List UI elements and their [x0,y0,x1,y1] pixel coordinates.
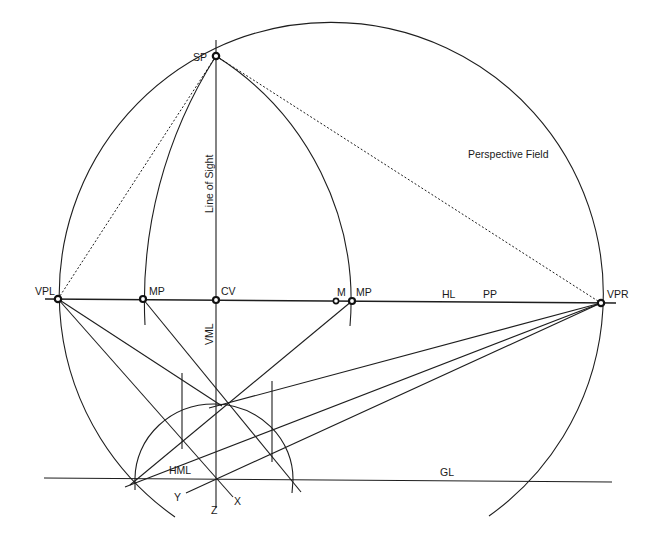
vpl-to-top-line [58,299,222,406]
y-axis-label: Y [174,491,181,503]
m-label: M [337,286,346,298]
hml-label: HML [169,464,191,476]
cv-label: CV [221,285,236,297]
vml-label: VML [203,323,215,345]
mp-left-label: MP [149,285,165,297]
mp-right-label: MP [356,286,372,298]
perspective-field-label: Perspective Field [468,148,549,160]
vpl-label: VPL [35,285,55,297]
vpr-point [598,300,604,306]
sp-point [213,53,219,59]
z-axis-label: Z [211,504,218,516]
sp-vpr-dotted [216,56,601,303]
cv-point [213,297,219,303]
perspective-diagram: SP Line of Sight Perspective Field VPL M… [0,0,660,547]
mp-right-diagonal [130,301,352,485]
ground-line [44,478,612,482]
vpl-point [55,296,61,302]
mp-left-point [140,296,146,302]
sp-label: SP [193,51,207,63]
gl-label: GL [440,466,454,478]
perspective-field-circle [59,22,603,517]
line-of-sight-label: Line of Sight [203,155,215,213]
measuring-arc-right [216,56,351,326]
hl-label: HL [442,288,456,300]
mp-right-point [349,298,355,304]
pp-label: PP [483,288,497,300]
sp-vpl-dotted [58,56,216,299]
horizon-line [45,299,616,303]
vpr-label: VPR [607,288,629,300]
vpr-to-left-line [125,303,601,487]
mp-left-diagonal [143,299,301,492]
m-point [333,298,338,303]
x-axis-label: X [234,495,241,507]
